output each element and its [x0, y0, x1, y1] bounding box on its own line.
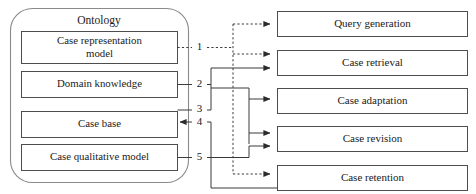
connector-4-feedback-from-retention: [207, 122, 278, 188]
connector-label-5: 5: [197, 150, 203, 162]
ontology-box-label-domain-knowledge: Domain knowledge: [57, 77, 142, 89]
ontology-box-label-case-qualitative-model: Case qualitative model: [50, 150, 149, 162]
ontology-title: Ontology: [77, 14, 121, 27]
stage-label-case-retention: Case retention: [341, 171, 405, 183]
diagram-canvas: Ontology Case representation model Domai…: [0, 0, 476, 194]
stage-label-case-retrieval: Case retrieval: [342, 56, 403, 68]
connector-label-1: 1: [197, 40, 203, 52]
ontology-box-label-case-representation-model-line2: model: [86, 47, 113, 59]
connector-2-to-case-retrieval: [207, 68, 270, 85]
stage-label-query-generation: Query generation: [334, 17, 411, 29]
ontology-box-label-case-representation-model-line1: Case representation: [57, 34, 142, 46]
diagram-svg: Ontology Case representation model Domai…: [0, 0, 476, 194]
connector-label-2: 2: [197, 77, 203, 89]
connector-5-to-case-revision: [207, 146, 270, 158]
stage-label-case-revision: Case revision: [343, 132, 403, 144]
stage-label-case-adaptation: Case adaptation: [338, 94, 408, 106]
ontology-box-label-case-base: Case base: [78, 117, 121, 129]
connector-label-3: 3: [197, 102, 203, 114]
connector-3-riser: [207, 85, 211, 111]
connector-label-4: 4: [197, 115, 203, 127]
